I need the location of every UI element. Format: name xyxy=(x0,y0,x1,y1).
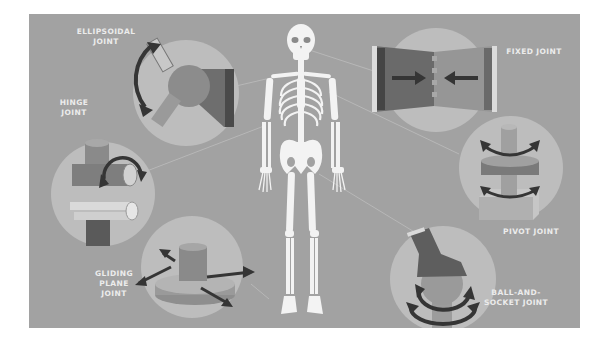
skeleton-figure xyxy=(259,24,345,314)
fixed-label-line1: Fixed Joint xyxy=(494,47,574,57)
ellipsoidal-label-line2: Joint xyxy=(71,37,141,47)
gliding-plane-joint-illustration xyxy=(135,216,255,318)
pivot-joint-illustration xyxy=(459,116,563,220)
fixed-joint-illustration xyxy=(372,28,497,132)
gliding-label-line3: Joint xyxy=(87,289,141,299)
fixed-joint-label: Fixed Joint xyxy=(494,47,574,57)
hinge-joint-illustration xyxy=(51,139,155,246)
pivot-joint-label: Pivot Joint xyxy=(491,227,571,237)
ball-and-socket-joint-label: Ball-and- Socket Joint xyxy=(471,288,561,308)
ball-and-socket-joint-illustration xyxy=(390,226,496,328)
ball-label-line2: Socket Joint xyxy=(471,298,561,308)
gliding-plane-joint-label: Gliding Plane Joint xyxy=(87,269,141,299)
joints-diagram: Ellipsoidal Joint Hinge Joint Gliding Pl… xyxy=(29,14,580,328)
hinge-label-line1: Hinge xyxy=(49,98,99,108)
hinge-joint-label: Hinge Joint xyxy=(49,98,99,118)
ellipsoidal-joint-illustration xyxy=(133,38,239,146)
gliding-label-line1: Gliding xyxy=(87,269,141,279)
gliding-label-line2: Plane xyxy=(87,279,141,289)
ellipsoidal-label-line1: Ellipsoidal xyxy=(71,27,141,37)
ball-label-line1: Ball-and- xyxy=(471,288,561,298)
hinge-label-line2: Joint xyxy=(49,108,99,118)
pivot-label-line1: Pivot Joint xyxy=(491,227,571,237)
ellipsoidal-joint-label: Ellipsoidal Joint xyxy=(71,27,141,47)
